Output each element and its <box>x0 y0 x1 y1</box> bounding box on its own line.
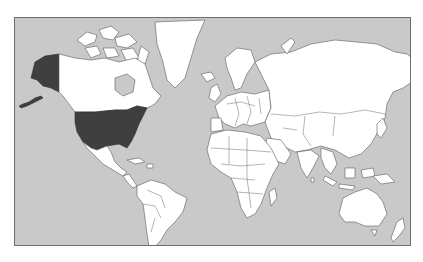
central-america <box>123 174 137 188</box>
uk <box>209 84 221 102</box>
sri-lanka <box>311 178 314 182</box>
world-map: World map <box>14 17 411 246</box>
southeast-asia <box>321 148 337 174</box>
tasmania <box>371 230 377 236</box>
map-canvas <box>15 18 411 246</box>
greenland <box>155 20 205 88</box>
new-guinea <box>373 174 395 184</box>
aleutian-islands <box>19 96 43 108</box>
south-america <box>137 180 187 246</box>
india <box>297 150 319 178</box>
europe-mainland <box>215 90 271 128</box>
canadian-arctic-archipelago <box>77 26 149 64</box>
alaska-highlighted <box>31 54 59 92</box>
iceland <box>201 72 215 82</box>
hispaniola <box>147 164 153 168</box>
australia <box>339 188 387 226</box>
iberia <box>211 118 223 132</box>
contiguous-united-states-highlighted <box>75 106 147 150</box>
cuba <box>127 158 145 164</box>
mexico <box>83 142 127 176</box>
new-zealand <box>391 218 405 242</box>
madagascar <box>269 188 277 206</box>
scandinavia <box>225 48 255 90</box>
